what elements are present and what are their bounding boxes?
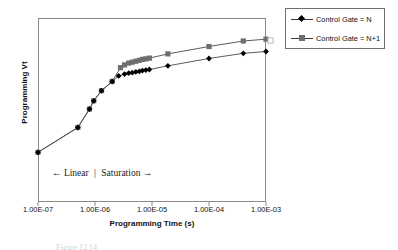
series-line bbox=[38, 51, 266, 152]
data-point-square bbox=[241, 38, 246, 43]
data-point-diamond bbox=[240, 50, 246, 56]
figure-chart: Programming Vt 1.00E-071.00E-061.00E-051… bbox=[0, 0, 398, 250]
series-canvas bbox=[0, 0, 398, 250]
data-point-square bbox=[147, 56, 152, 61]
data-point-diamond bbox=[206, 56, 212, 62]
data-point-diamond bbox=[165, 63, 171, 69]
data-point-square bbox=[165, 51, 170, 56]
series-line bbox=[38, 39, 266, 152]
data-point-diamond bbox=[263, 49, 269, 55]
data-point-diamond bbox=[122, 71, 128, 77]
data-point-diamond bbox=[146, 67, 152, 73]
data-point-square bbox=[206, 44, 211, 49]
figure-caption: Figure 12.14 bbox=[56, 243, 97, 250]
clipped-marker-artifact bbox=[268, 38, 273, 43]
